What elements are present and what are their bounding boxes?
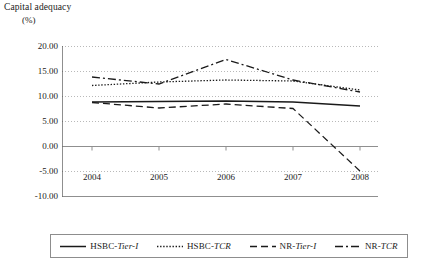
x-axis-tick-label: 2007 [270,172,316,182]
y-axis-tick-label: 0.00 [4,142,58,151]
y-axis-tick-label: -10.00 [4,192,58,201]
y-axis-tick-label: 15.00 [4,67,58,76]
y-axis-tick-labels: 20.0015.0010.005.000.00-5.00-10.00 [0,46,58,196]
y-axis-tick-label: -5.00 [4,167,58,176]
series-line [92,103,360,172]
capital-adequacy-chart: Capital adequacy (%) 20.0015.0010.005.00… [0,0,424,269]
legend-entry: NR-Tier-I [250,241,317,251]
y-axis-tick-label: 10.00 [4,92,58,101]
legend-entry: NR-TCR [335,241,398,251]
legend-line-swatch [157,242,183,251]
x-axis-tick-label: 2005 [136,172,182,182]
x-axis-tick-labels: 20042005200620072008 [62,172,378,188]
x-axis-tick-label: 2008 [337,172,383,182]
chart-title: Capital adequacy [4,2,71,12]
y-axis-tick-label: 20.00 [4,42,58,51]
legend-label: HSBC-TCR [187,241,231,251]
y-axis-tick-label: 5.00 [4,117,58,126]
chart-legend: HSBC-Tier-IHSBC-TCRNR-Tier-INR-TCR [50,234,408,258]
legend-line-swatch [60,242,86,251]
legend-label: HSBC-Tier-I [90,241,138,251]
x-axis-tick-label: 2004 [69,172,115,182]
legend-entry: HSBC-TCR [157,241,231,251]
legend-line-swatch [335,242,361,251]
series-line [92,60,360,93]
legend-label: NR-Tier-I [280,241,317,251]
plot-svg [62,46,378,218]
x-axis-tick-label: 2006 [203,172,249,182]
legend-line-swatch [250,242,276,251]
legend-label: NR-TCR [365,241,398,251]
legend-entry: HSBC-Tier-I [60,241,138,251]
chart-unit-label: (%) [22,15,36,25]
